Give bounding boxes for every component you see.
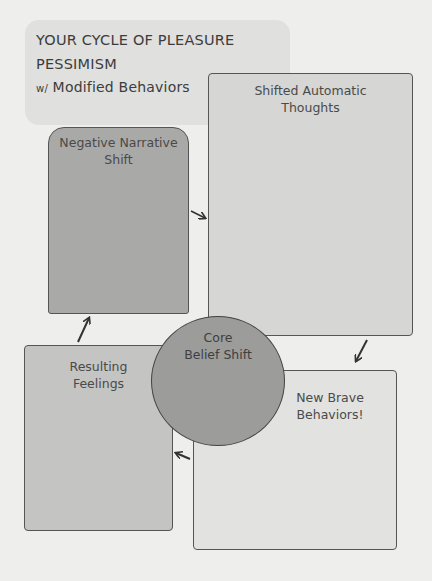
title-line-2: PESSIMISM (36, 56, 117, 72)
arrow-feelings-to-narrative-icon (78, 318, 89, 342)
subtitle-text: Modified Behaviors (48, 79, 190, 95)
arrow-thoughts-to-brave-icon (356, 340, 367, 361)
label-line: Resulting (70, 359, 128, 374)
subtitle-prefix: w/ (36, 83, 48, 94)
label-line: Behaviors! (296, 407, 363, 422)
label-line: Thoughts (281, 100, 339, 115)
label-line: New Brave (296, 390, 364, 405)
shifted-automatic-thoughts-box[interactable]: Shifted Automatic Thoughts (208, 73, 413, 336)
label-line: Negative Narrative (59, 135, 177, 150)
label-line: Shift (104, 152, 132, 167)
label-line: Belief Shift (184, 347, 252, 362)
label-line: Shifted Automatic (254, 83, 366, 98)
label-line: Feelings (73, 376, 124, 391)
title-line-1: YOUR CYCLE OF PLEASURE (36, 32, 234, 48)
shifted-automatic-thoughts-label: Shifted Automatic Thoughts (209, 74, 412, 116)
negative-narrative-shift-label: Negative Narrative Shift (49, 128, 188, 168)
subtitle: w/ Modified Behaviors (36, 79, 190, 95)
core-belief-shift-circle[interactable]: Core Belief Shift (151, 316, 285, 446)
resulting-feelings-label: Resulting Feelings (25, 346, 172, 392)
arrow-brave-to-feelings-icon (176, 453, 190, 459)
core-belief-shift-label: Core Belief Shift (152, 317, 284, 363)
negative-narrative-shift-box[interactable]: Negative Narrative Shift (48, 127, 189, 314)
label-line: Core (204, 330, 233, 345)
arrow-narrative-to-thoughts-icon (191, 211, 205, 218)
